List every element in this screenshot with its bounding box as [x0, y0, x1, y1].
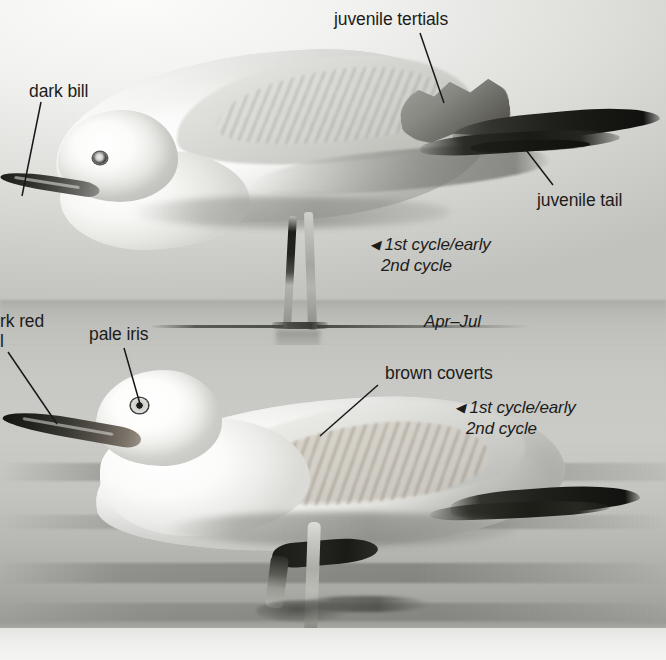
caption-top-months: Apr–Jul	[424, 312, 481, 332]
label-juvenile-tail: juvenile tail	[537, 190, 622, 211]
caption-bottom-text2: 2nd cycle	[466, 419, 537, 439]
leader-brown-coverts	[320, 385, 378, 436]
caption-bottom-text1: 1st cycle/early	[470, 398, 576, 417]
leader-pale-iris	[124, 348, 140, 404]
annotation-layer: dark bill juvenile tertials juvenile tai…	[0, 0, 666, 660]
label-pale-iris: pale iris	[89, 324, 148, 345]
leader-juvenile-tail	[523, 146, 553, 185]
leader-juvenile-tertials	[420, 33, 444, 103]
label-dark-red-bill-line1: rk red	[0, 311, 44, 332]
label-dark-bill: dark bill	[29, 81, 88, 102]
label-juvenile-tertials: juvenile tertials	[334, 9, 448, 30]
label-brown-coverts: brown coverts	[385, 363, 493, 384]
leader-dark-bill	[22, 102, 41, 196]
field-guide-plate: dark bill juvenile tertials juvenile tai…	[0, 0, 666, 660]
caption-top-text2: 2nd cycle	[381, 256, 452, 276]
label-dark-red-bill-line2: l	[0, 331, 4, 352]
caret-left-icon-bottom: ◀	[455, 400, 465, 415]
caption-top-text1: 1st cycle/early	[385, 235, 491, 254]
caption-bottom-line1: ◀ 1st cycle/early	[455, 398, 576, 418]
leader-dark-red-bill	[8, 352, 57, 424]
caption-top-line1: ◀ 1st cycle/early	[370, 235, 491, 255]
caret-left-icon-top: ◀	[370, 237, 380, 252]
